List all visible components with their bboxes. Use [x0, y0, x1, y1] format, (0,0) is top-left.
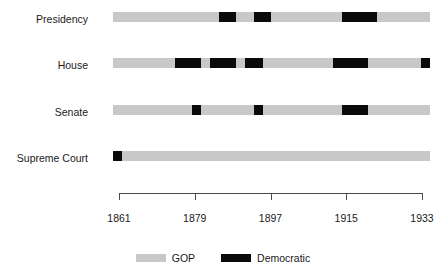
x-axis-tick: [271, 193, 272, 200]
row-label-senate: Senate: [55, 107, 88, 118]
timeline-bar-senate: [113, 105, 430, 115]
democratic-segment: [421, 58, 430, 68]
democratic-segment: [210, 58, 236, 68]
legend-swatch-gop: [136, 254, 166, 262]
x-axis-tick: [346, 193, 347, 200]
row-label-presidency: Presidency: [36, 14, 88, 25]
chart-legend: GOP Democratic: [0, 252, 446, 264]
democratic-segment: [254, 12, 272, 22]
timeline-bar-supreme-court: [113, 151, 430, 161]
x-axis-tick: [195, 193, 196, 200]
x-axis-tick: [422, 193, 423, 200]
democratic-segment: [219, 12, 237, 22]
democratic-segment: [254, 105, 263, 115]
democratic-segment: [342, 12, 377, 22]
democratic-segment: [192, 105, 201, 115]
timeline-bar-house: [113, 58, 430, 68]
timeline-bar-presidency: [113, 12, 430, 22]
democratic-segment: [245, 58, 263, 68]
legend-label-gop: GOP: [172, 252, 195, 264]
x-axis-tick-label: 1897: [259, 212, 282, 224]
party-control-timeline-chart: Presidency House Senate Supreme Court 18…: [0, 0, 446, 277]
democratic-segment: [175, 58, 201, 68]
x-axis-tick-label: 1879: [183, 212, 206, 224]
legend-item-democratic: Democratic: [221, 252, 310, 264]
row-label-supreme-court: Supreme Court: [17, 153, 88, 164]
x-axis-tick-label: 1915: [335, 212, 358, 224]
democratic-segment: [342, 105, 368, 115]
x-axis-tick: [119, 193, 120, 200]
x-axis-tick-label: 1861: [107, 212, 130, 224]
legend-item-gop: GOP: [136, 252, 195, 264]
legend-label-democratic: Democratic: [257, 252, 310, 264]
legend-swatch-democratic: [221, 254, 251, 262]
row-label-house: House: [58, 60, 88, 71]
democratic-segment: [333, 58, 368, 68]
democratic-segment: [113, 151, 122, 161]
x-axis-tick-label: 1933: [410, 212, 433, 224]
